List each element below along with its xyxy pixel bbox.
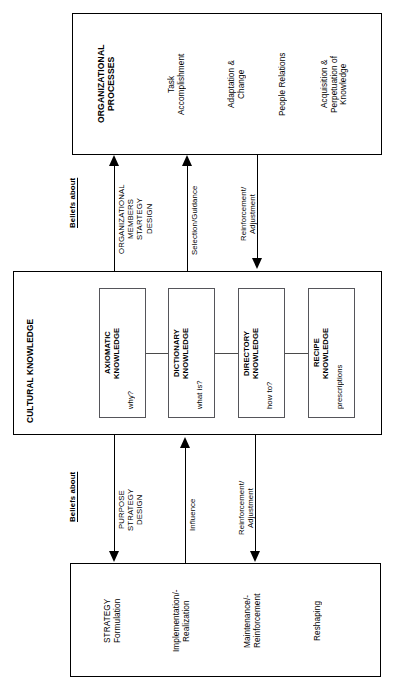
strategy-item-reshaping: Reshaping bbox=[313, 574, 327, 668]
upper-edge-1-arrowhead-icon bbox=[109, 155, 119, 166]
lower-beliefs-about-label: Beliefs about bbox=[68, 462, 80, 522]
process-item-acquisition-perpetuation: Acquisition & Perpetuation of Knowledge bbox=[320, 24, 352, 144]
upper-edge-2-arrowhead-icon bbox=[182, 155, 192, 166]
strategy-item-maintenance: Maintenance/- Reinforcement bbox=[243, 574, 265, 668]
process-item-people-relations: People Relations bbox=[278, 24, 292, 144]
lower-edge-1-label: PURPOSE STRATEGY DESIGN bbox=[117, 462, 153, 558]
upper-beliefs-about-label: Beliefs about bbox=[68, 168, 80, 228]
cell-link-2-3 bbox=[215, 353, 239, 354]
lower-edge-2-arrowhead-icon bbox=[180, 437, 190, 448]
strategy-item-implementation: Implementation/- Realization bbox=[172, 574, 194, 668]
knowledge-cell-recipe-question: prescriptions bbox=[336, 297, 348, 409]
knowledge-cell-recipe-name: RECIPE KNOWLEDGE bbox=[313, 297, 335, 409]
diagram-canvas: ORGANIZATIONAL PROCESSES Task Accomplish… bbox=[0, 0, 399, 684]
organizational-processes-heading: ORGANIZATIONAL PROCESSES bbox=[96, 24, 118, 144]
lower-edge-3-label: Reinforcement/ Adjustment bbox=[237, 460, 261, 556]
cultural-knowledge-title: CULTURAL KNOWLEDGE bbox=[26, 283, 38, 423]
cell-link-3-4 bbox=[285, 353, 308, 354]
upper-edge-1-line bbox=[114, 166, 115, 271]
knowledge-cell-directory-name: DIRECTORY KNOWLEDGE bbox=[243, 297, 265, 409]
knowledge-cell-axiomatic-name: AXIOMATIC KNOWLEDGE bbox=[104, 297, 126, 409]
lower-edge-1-line bbox=[114, 435, 115, 552]
knowledge-cell-axiomatic-question: why? bbox=[127, 297, 139, 409]
upper-edge-2-line bbox=[187, 166, 188, 271]
process-item-adaptation-change: Adaptation & Change bbox=[227, 24, 249, 144]
upper-edge-3-label: Reinforcement/ Adjustment bbox=[239, 166, 263, 262]
lower-edge-2-line bbox=[185, 448, 186, 563]
strategy-item-formulation: STRATEGY Formulation bbox=[103, 574, 125, 668]
lower-edge-2-label: Influence bbox=[188, 470, 200, 560]
upper-edge-2-label: Selection/Guidance bbox=[190, 172, 202, 268]
knowledge-cell-dictionary-name: DICTIONARY KNOWLEDGE bbox=[173, 297, 195, 409]
upper-edge-1-label: ORGANIZATIONAL MEMBERS STARTEGY DESIGN bbox=[117, 170, 163, 268]
cell-link-1-2 bbox=[146, 353, 168, 354]
process-item-task-accomplishment: Task Accomplishment bbox=[167, 24, 189, 144]
knowledge-cell-dictionary-question: what is? bbox=[196, 297, 208, 409]
knowledge-cell-directory-question: how to? bbox=[266, 297, 278, 409]
